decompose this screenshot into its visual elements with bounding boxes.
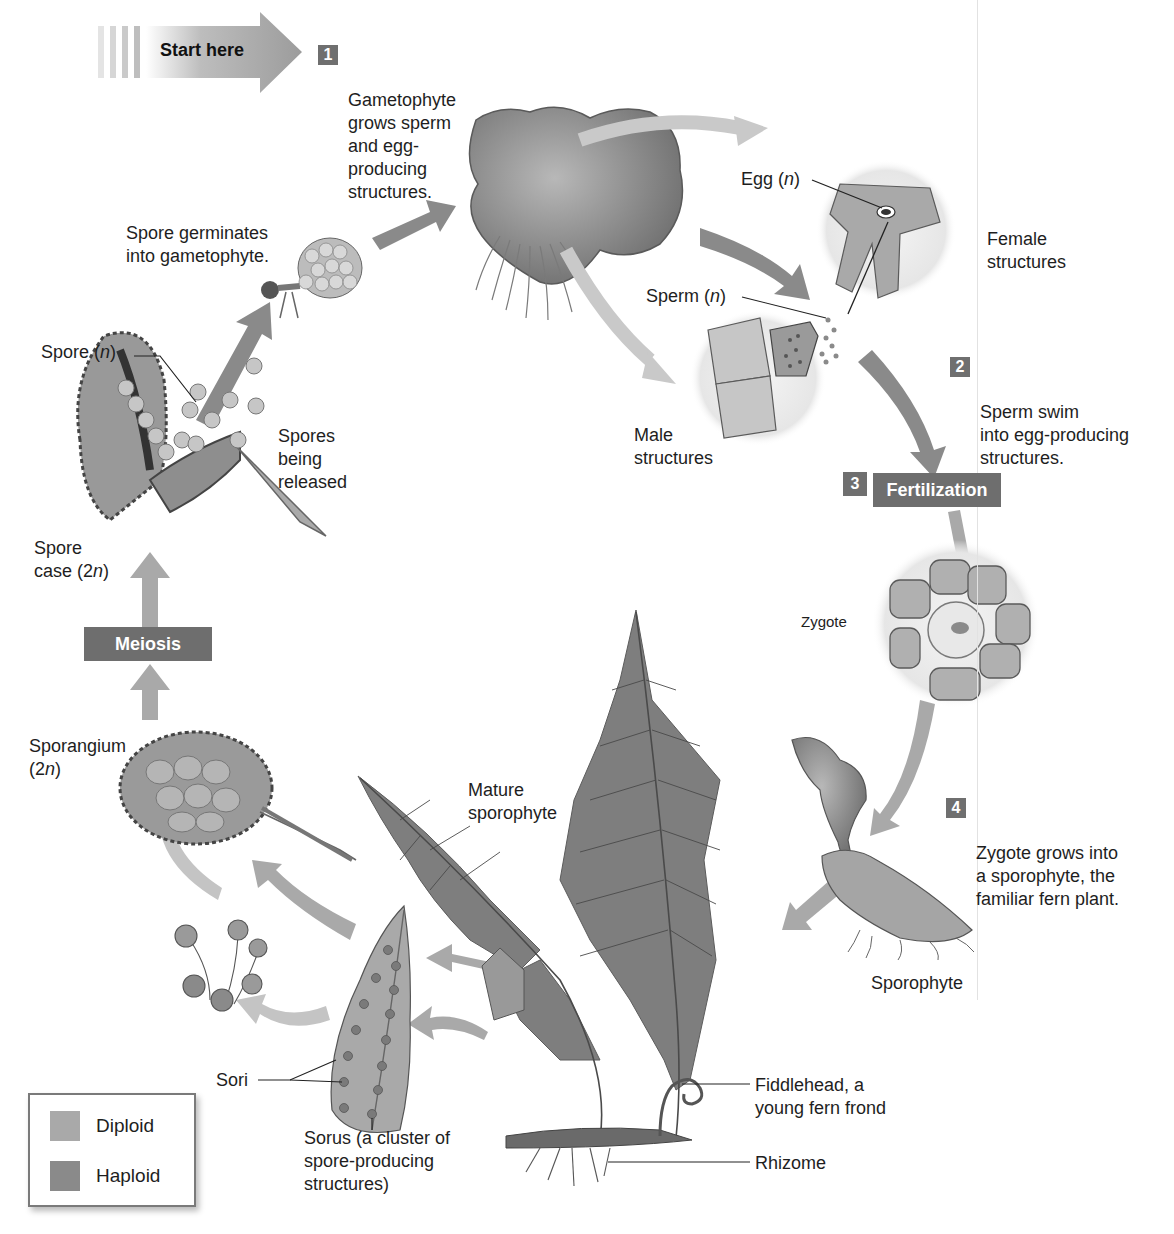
mature-sporophyte-illustration xyxy=(358,610,720,1186)
step-1-number: 1 xyxy=(318,45,338,65)
sporophyte-label: Sporophyte xyxy=(871,972,963,995)
sporangium-illustration xyxy=(120,732,356,860)
arrow-to-female xyxy=(734,116,768,146)
step-3-number: 3 xyxy=(843,472,867,496)
meiosis-box: Meiosis xyxy=(84,627,212,661)
step-4-text: Zygote grows into a sporophyte, the fami… xyxy=(976,843,1119,909)
life-cycle-illustration xyxy=(0,0,1174,1234)
step-2: 2 Sperm swim into egg-producing structur… xyxy=(950,355,1129,470)
haploid-swatch xyxy=(50,1161,80,1191)
spore-label: Spore (n) xyxy=(41,341,116,364)
gametophyte-illustration xyxy=(469,107,740,360)
sorus-label: Sorus (a cluster of spore-producing stru… xyxy=(304,1127,450,1196)
fiddlehead-label: Fiddlehead, a young fern frond xyxy=(755,1074,886,1120)
arrow-to-male xyxy=(642,352,676,384)
step-2-number: 2 xyxy=(950,357,970,377)
female-structures-label: Female structures xyxy=(987,228,1066,274)
step-1: 1 Gametophyte grows sperm and egg- produ… xyxy=(318,43,456,204)
sorus-frond-illustration xyxy=(331,906,410,1133)
step-1-text: Gametophyte grows sperm and egg- produci… xyxy=(348,90,456,202)
legend: Diploid Haploid xyxy=(28,1093,196,1207)
sperm-label: Sperm (n) xyxy=(646,285,726,308)
spore-germinates-label: Spore germinates into gametophyte. xyxy=(126,222,269,268)
diploid-swatch xyxy=(50,1111,80,1141)
egg-label: Egg (n) xyxy=(741,168,800,191)
sori-label: Sori xyxy=(216,1069,248,1092)
legend-haploid-label: Haploid xyxy=(96,1165,160,1187)
female-structures-illustration xyxy=(816,160,956,314)
step-4-number: 4 xyxy=(946,798,966,818)
step-2-text: Sperm swim into egg-producing structures… xyxy=(980,402,1129,468)
legend-item-diploid: Diploid xyxy=(50,1111,154,1141)
rhizome-label: Rhizome xyxy=(755,1152,826,1175)
start-here-label: Start here xyxy=(160,40,244,61)
mature-sporophyte-label: Mature sporophyte xyxy=(468,779,557,825)
sporangium-label: Sporangium (2n) xyxy=(29,735,126,781)
zygote-illustration xyxy=(872,540,1040,708)
spores-released-label: Spores being released xyxy=(278,425,347,494)
legend-item-haploid: Haploid xyxy=(50,1161,160,1191)
zygote-label: Zygote xyxy=(801,610,847,633)
spore-case-label: Spore case (2n) xyxy=(34,537,109,583)
fertilization-box: Fertilization xyxy=(873,473,1001,507)
germinating-spore-illustration xyxy=(261,238,362,318)
step-4: 4 Zygote grows into a sporophyte, the fa… xyxy=(946,796,1119,911)
legend-diploid-label: Diploid xyxy=(96,1115,154,1137)
male-structures-label: Male structures xyxy=(634,424,713,470)
